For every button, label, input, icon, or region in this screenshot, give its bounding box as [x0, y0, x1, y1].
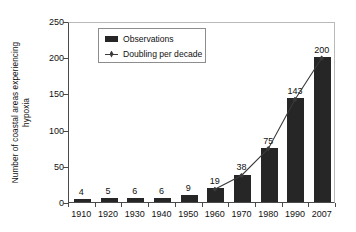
- bar: [181, 195, 198, 202]
- y-axis-tick-label: 0: [40, 198, 64, 208]
- x-axis-tick-mark: [68, 203, 69, 207]
- x-axis-tick-label: 1940: [151, 209, 171, 219]
- bar-swatch-icon: [105, 36, 118, 42]
- bar-value-label: 143: [287, 86, 302, 96]
- x-axis-tick-mark: [255, 203, 256, 207]
- bar: [261, 148, 278, 202]
- y-axis-tick-label: 50: [40, 162, 64, 172]
- legend-box: Observations Doubling per decade: [98, 28, 206, 63]
- x-axis-tick-mark: [282, 203, 283, 207]
- bar: [154, 198, 171, 202]
- x-axis-tick-label: 1970: [232, 209, 252, 219]
- bar-value-label: 5: [106, 186, 111, 196]
- x-axis-tick-label: 1950: [178, 209, 198, 219]
- bar-value-label: 75: [263, 136, 273, 146]
- bar-value-label: 6: [159, 186, 164, 196]
- x-axis-tick-label: 2007: [312, 209, 332, 219]
- x-axis-tick-label: 1990: [285, 209, 305, 219]
- legend-label-doubling-per-decade: Doubling per decade: [123, 49, 202, 59]
- x-axis-tick-label: 1920: [98, 209, 118, 219]
- x-axis-tick-label: 1910: [71, 209, 91, 219]
- bar: [127, 198, 144, 202]
- x-axis-tick-mark: [202, 203, 203, 207]
- y-axis-tick-label: 200: [40, 53, 64, 63]
- x-axis-tick-label: 1930: [125, 209, 145, 219]
- y-axis-tick-label: 100: [40, 126, 64, 136]
- legend-item-observations: Observations: [105, 33, 174, 45]
- bar: [207, 188, 224, 202]
- bar-value-label: 9: [186, 183, 191, 193]
- y-axis-tick-label: 250: [40, 17, 64, 27]
- y-axis-title: Number of coastal areas experiencing hyp…: [11, 8, 32, 218]
- legend-label-observations: Observations: [123, 34, 174, 44]
- bar: [314, 57, 331, 202]
- bar-value-label: 4: [79, 187, 84, 197]
- bar-value-label: 38: [237, 162, 247, 172]
- x-axis-tick-label: 1960: [205, 209, 225, 219]
- bar-value-label: 19: [210, 176, 220, 186]
- line-marker-icon: [105, 51, 118, 58]
- bar: [287, 98, 304, 202]
- x-axis-tick-label: 1980: [258, 209, 278, 219]
- x-axis-tick-mark: [148, 203, 149, 207]
- bar-value-label: 200: [314, 45, 329, 55]
- y-axis-title-line-1: Number of coastal areas experiencing: [11, 42, 20, 184]
- x-axis-tick-mark: [121, 203, 122, 207]
- x-axis-tick-mark: [95, 203, 96, 207]
- x-axis-tick-mark: [308, 203, 309, 207]
- bar: [74, 199, 91, 202]
- legend-item-doubling-per-decade: Doubling per decade: [105, 48, 202, 60]
- bar: [101, 198, 118, 202]
- bar: [234, 175, 251, 203]
- x-axis-tick-mark: [228, 203, 229, 207]
- x-axis-tick-mark: [175, 203, 176, 207]
- bar-value-label: 6: [132, 186, 137, 196]
- y-axis-title-line-2: hypoxia: [21, 8, 32, 218]
- y-axis-tick-label: 150: [40, 89, 64, 99]
- chart-figure: Number of coastal areas experiencing hyp…: [0, 0, 356, 232]
- x-axis-tick-mark: [335, 203, 336, 207]
